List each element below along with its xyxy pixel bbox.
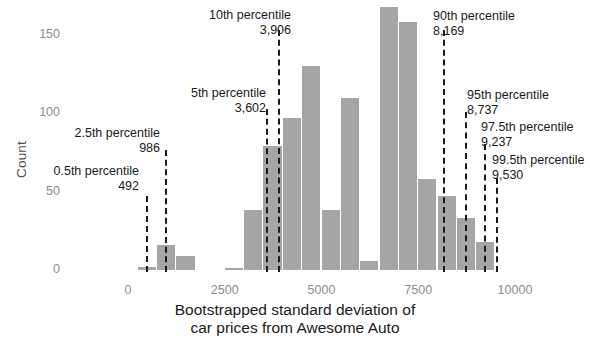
- histogram-bar: [360, 261, 378, 270]
- percentile-label-name: 97.5th percentile: [481, 120, 573, 135]
- percentile-label-name: 90th percentile: [433, 9, 515, 24]
- percentile-label-name: 99.5th percentile: [492, 153, 584, 168]
- y-axis-tick-150: 150: [16, 27, 60, 41]
- histogram-bar: [438, 196, 456, 270]
- percentile-label-name: 95th percentile: [467, 88, 549, 103]
- histogram-bar: [176, 256, 194, 270]
- percentile-label-p5: 5th percentile3,602: [191, 86, 266, 115]
- percentile-line-p97_5: [484, 144, 486, 272]
- percentile-line-p99_5: [496, 178, 498, 272]
- x-axis-title: Bootstrapped standard deviation of car p…: [0, 301, 590, 337]
- percentile-label-value: 986: [75, 141, 160, 156]
- percentile-label-name: 0.5th percentile: [54, 164, 139, 179]
- percentile-line-p0_5: [146, 196, 148, 272]
- percentile-label-p97_5: 97.5th percentile9,237: [481, 120, 573, 149]
- percentile-label-value: 3,906: [209, 23, 291, 38]
- percentile-label-p99_5: 99.5th percentile9,530: [492, 153, 584, 182]
- histogram-bar: [341, 98, 359, 270]
- percentile-label-name: 5th percentile: [191, 86, 266, 101]
- histogram-bar: [302, 66, 320, 270]
- histogram-chart: Count 0501001500250050007500100000.5th p…: [0, 0, 590, 346]
- histogram-bar: [322, 210, 340, 270]
- percentile-label-value: 9,237: [481, 135, 573, 150]
- percentile-label-name: 2.5th percentile: [75, 126, 160, 141]
- percentile-line-p2_5: [165, 150, 167, 272]
- plot-area: 0501001500250050007500100000.5th percent…: [0, 0, 590, 346]
- x-axis-tick-5000: 5000: [308, 283, 336, 297]
- histogram-bar: [418, 179, 436, 270]
- histogram-bar: [244, 210, 262, 270]
- x-axis-tick-2500: 2500: [211, 283, 239, 297]
- histogram-bar: [283, 118, 301, 270]
- percentile-label-p10: 10th percentile3,906: [209, 8, 291, 37]
- percentile-label-name: 10th percentile: [209, 8, 291, 23]
- x-axis-tick-7500: 7500: [404, 283, 432, 297]
- percentile-line-p5: [266, 109, 268, 272]
- percentile-label-p95: 95th percentile8,737: [467, 88, 549, 117]
- percentile-label-value: 9,530: [492, 168, 584, 183]
- percentile-label-p0_5: 0.5th percentile492: [54, 164, 139, 193]
- percentile-label-p90: 90th percentile8,169: [433, 9, 515, 38]
- percentile-label-value: 8,737: [467, 103, 549, 118]
- x-axis-tick-10000: 10000: [498, 283, 533, 297]
- histogram-bar: [380, 7, 398, 270]
- percentile-label-value: 3,602: [191, 101, 266, 116]
- percentile-label-value: 492: [54, 179, 139, 194]
- percentile-label-value: 8,169: [433, 24, 515, 39]
- percentile-label-p2_5: 2.5th percentile986: [75, 126, 160, 155]
- y-axis-tick-100: 100: [16, 105, 60, 119]
- percentile-line-p90: [443, 30, 445, 272]
- y-axis-tick-0: 0: [16, 262, 60, 276]
- percentile-line-p95: [465, 112, 467, 272]
- percentile-line-p10: [278, 30, 280, 272]
- histogram-bar: [399, 22, 417, 270]
- histogram-bar: [225, 268, 243, 270]
- x-axis-tick-0: 0: [125, 283, 132, 297]
